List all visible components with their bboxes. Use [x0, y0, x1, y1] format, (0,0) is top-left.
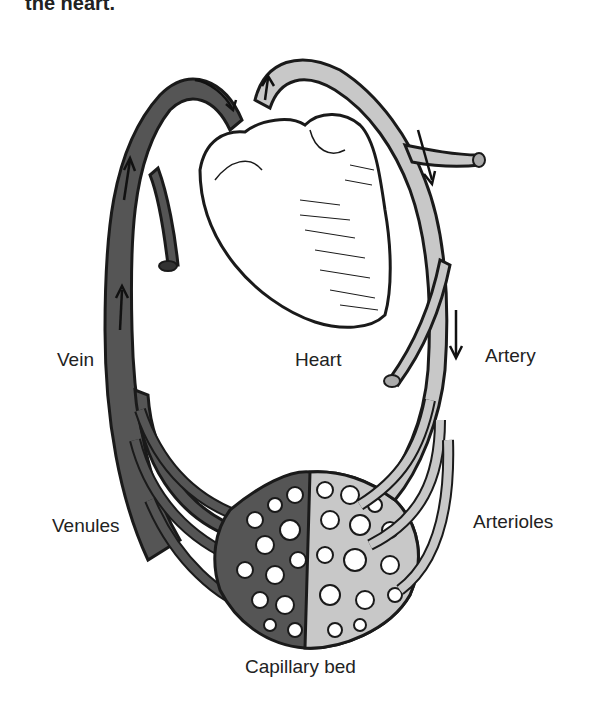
label-venules: Venules: [52, 515, 120, 537]
label-vein: Vein: [57, 349, 94, 371]
label-heart: Heart: [295, 349, 341, 371]
label-capillary-bed: Capillary bed: [245, 656, 356, 678]
heart: [200, 114, 390, 327]
label-arterioles: Arterioles: [473, 511, 553, 533]
capillary-bed: [215, 472, 419, 648]
label-artery: Artery: [485, 345, 536, 367]
